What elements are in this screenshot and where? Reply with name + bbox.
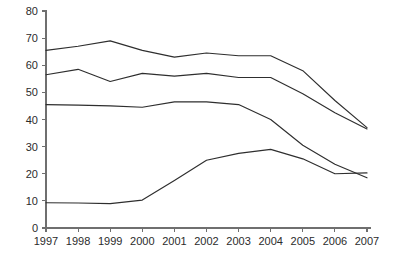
y-axis-tick-label: 50 [26,86,38,98]
series-layer: Series 1Series 2Series 3Series 4 [46,41,367,204]
x-axis-tick-label: 2006 [323,235,347,247]
y-axis-tick-label: 10 [26,195,38,207]
y-axis-tick-label: 40 [26,114,38,126]
y-axis-tick-label: 70 [26,32,38,44]
y-axis-tick-label: 60 [26,59,38,71]
x-axis-tick-label: 1998 [66,235,90,247]
x-axis-tick-label: 1999 [98,235,122,247]
x-axis-tick-label: 2004 [258,235,282,247]
y-axis-tick-label: 20 [26,168,38,180]
x-axis-tick-label: 1997 [34,235,58,247]
y-axis-tick-label: 30 [26,141,38,153]
x-axis-tick-label: 2001 [162,235,186,247]
y-axis-tick-label: 0 [32,222,38,234]
series-line-4: Series 4 [46,149,367,203]
line-chart: 01020304050607080 1997199819992000200120… [0,0,395,258]
series-line-2: Series 2 [46,69,367,129]
x-axis-tick-label: 2005 [291,235,315,247]
chart-canvas: 01020304050607080 1997199819992000200120… [0,0,395,258]
y-axis-tick-label: 80 [26,5,38,17]
x-axis-tick-label: 2002 [194,235,218,247]
x-axis-tick-label: 2007 [355,235,379,247]
x-axis-tick-label: 2003 [226,235,250,247]
x-axis-tick-label: 2000 [130,235,154,247]
x-axis: 1997199819992000200120022003200420052006… [34,228,379,247]
series-line-1: Series 1 [46,41,367,128]
y-axis: 01020304050607080 [26,5,46,234]
